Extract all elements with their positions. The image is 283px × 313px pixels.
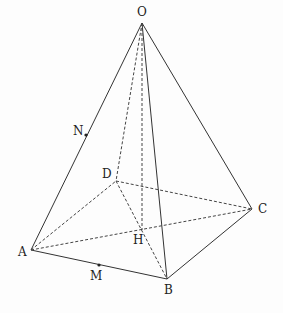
label-D: D bbox=[102, 167, 112, 181]
edge-OB bbox=[142, 23, 167, 279]
label-N: N bbox=[73, 124, 84, 138]
edge-BC bbox=[167, 209, 252, 279]
edge-AD bbox=[31, 181, 116, 250]
label-B: B bbox=[164, 283, 173, 297]
edge-DC bbox=[116, 181, 252, 209]
label-H: H bbox=[133, 233, 143, 247]
edge-OC bbox=[142, 23, 252, 209]
edge-OD bbox=[116, 23, 142, 181]
pyramid-diagram: O A B C D H M N bbox=[0, 0, 283, 313]
label-O: O bbox=[137, 5, 147, 19]
point-N-dot bbox=[84, 133, 87, 136]
label-M: M bbox=[90, 269, 102, 283]
label-C: C bbox=[258, 202, 267, 216]
label-A: A bbox=[17, 245, 27, 259]
pyramid-figure: O A B C D H M N bbox=[0, 0, 283, 313]
point-M-dot bbox=[97, 263, 100, 266]
